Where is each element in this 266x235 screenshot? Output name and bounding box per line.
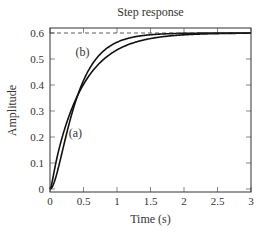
y-tick-label: 0.1 (30, 157, 44, 169)
x-tick-label: 1.5 (144, 195, 158, 207)
x-tick-label: 3 (248, 195, 254, 207)
y-tick-label: 0 (39, 183, 45, 195)
curve-annotation: (a) (69, 126, 82, 140)
x-tick-label: 1 (114, 195, 120, 207)
curve-annotation: (b) (75, 45, 89, 59)
plot-area: 00.511.522.5300.10.20.30.40.50.6 (b)(a) (0, 0, 266, 235)
x-tick-label: 2.5 (211, 195, 225, 207)
x-tick-label: 2 (181, 195, 187, 207)
x-tick-label: 0.5 (77, 195, 91, 207)
y-tick-label: 0.5 (30, 53, 44, 65)
y-tick-label: 0.3 (30, 105, 44, 117)
y-tick-label: 0.2 (30, 131, 44, 143)
y-tick-label: 0.6 (30, 27, 44, 39)
y-tick-label: 0.4 (30, 79, 44, 91)
x-tick-label: 0 (47, 195, 53, 207)
